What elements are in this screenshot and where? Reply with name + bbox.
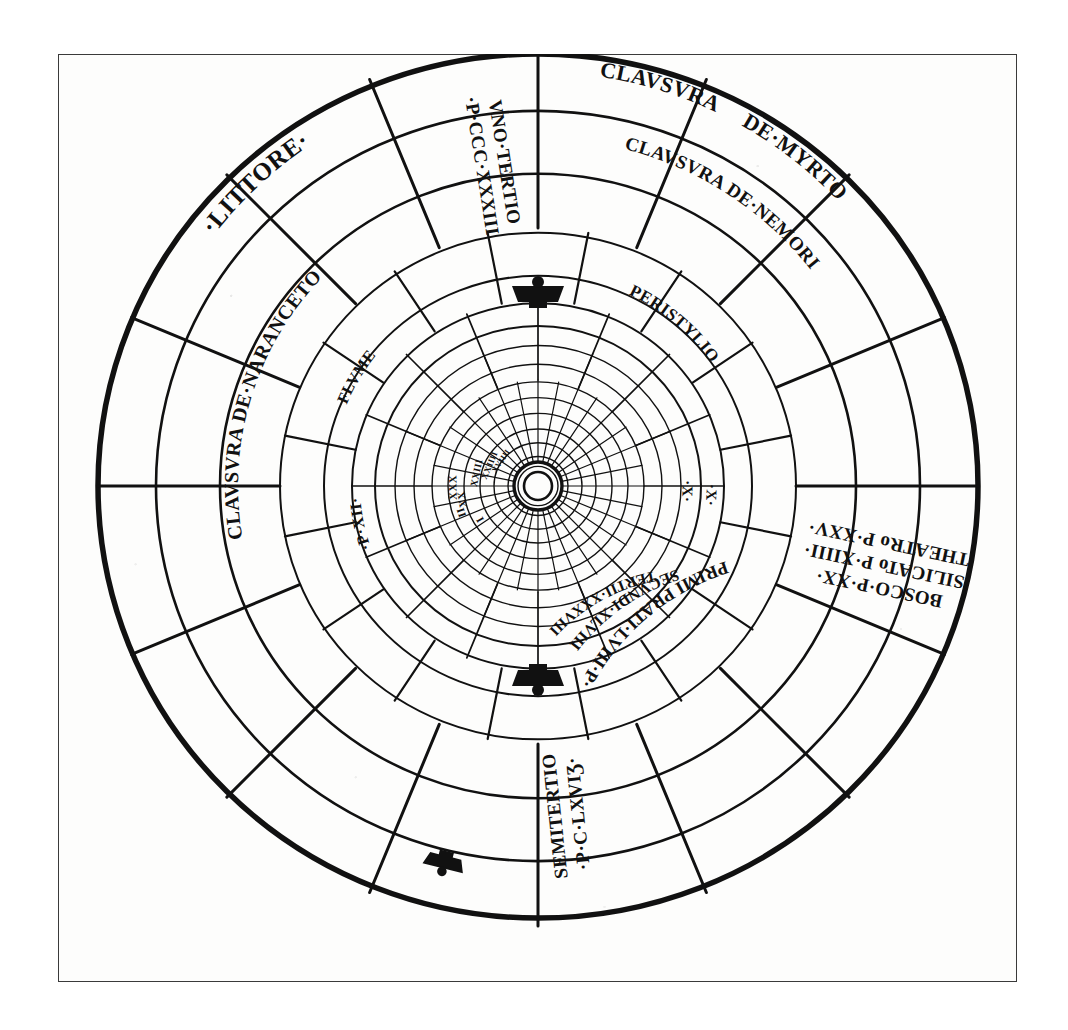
radial-plan-diagram: ·LITTORE·CLAVSVRADE·MYRTOBOSCO·P·XX·SILI…: [58, 54, 1017, 982]
core-spoke-9: [562, 491, 642, 507]
mid-spoke-11: [285, 522, 356, 536]
crown-gate-ornament-2: [421, 846, 468, 881]
outer-spoke-11: [131, 585, 299, 655]
mid-spoke-5: [693, 589, 753, 629]
crown-gate-ornament-1: [512, 664, 564, 696]
core-spoke-long-2: [636, 527, 670, 541]
label-littore: ·LITTORE·: [196, 126, 314, 238]
numeral-num-xxx: XXX: [446, 475, 458, 500]
outer-spoke-7: [637, 724, 707, 892]
tick-x-inner: ·X·: [679, 480, 696, 503]
core-spoke-long-6: [406, 431, 440, 445]
tick-x-outer: ·X·: [703, 484, 720, 507]
core-spoke-18: [497, 508, 528, 584]
plan-svg: ·LITTORE·CLAVSVRADE·MYRTOBOSCO·P·XX·SILI…: [58, 54, 1017, 982]
core-spoke-long-5: [406, 527, 440, 541]
core-spoke-20: [463, 503, 521, 561]
mid-spoke-0: [574, 233, 588, 304]
outer-spoke-6: [720, 668, 849, 797]
mid-spoke-15: [488, 233, 502, 304]
outer-spoke-10: [227, 668, 356, 797]
label-vno_tertio: VNO·TERTIO·P·CCC·XXXIII: [461, 91, 526, 236]
hub-inner-circle: [524, 472, 552, 500]
mid-spoke-3: [720, 436, 791, 450]
core-spoke-7: [562, 465, 642, 481]
core-spoke-14: [547, 508, 578, 584]
core-spoke-15: [543, 510, 559, 590]
core-spoke-2: [547, 388, 578, 464]
mid-spoke-12: [285, 436, 356, 450]
core-spoke-1: [543, 382, 559, 462]
label-peristylio: PERISTYLIO: [627, 281, 723, 366]
outer-spoke-9: [370, 724, 440, 892]
label-p_xii: ·P·XII·: [346, 497, 374, 553]
mid-spoke-14: [395, 271, 435, 331]
mid-spoke-9: [395, 641, 435, 701]
label-clausura_myrto_2: DE·MYRTO: [739, 108, 853, 205]
mid-spoke-6: [641, 641, 681, 701]
core-spoke-long-1: [636, 431, 670, 445]
outer-spoke-3: [776, 318, 944, 388]
core-spoke-31: [517, 382, 533, 462]
numeral-num-i: I: [473, 515, 486, 525]
hub-outer-circle: [514, 462, 562, 510]
crown-gate-ornament-0: [512, 276, 564, 308]
central-hub: [514, 462, 562, 510]
mid-spoke-4: [720, 522, 791, 536]
mid-spoke-8: [488, 668, 502, 739]
label-bosco_silicato_theatro: BOSCO·P·XX·SILICATo P·XIIII·THEATRo P·XX…: [797, 516, 971, 616]
outer-spoke-15: [370, 79, 440, 247]
ring-circle-2: [220, 174, 856, 799]
label-clausura_naranceto: CLAVSVRA DE·NARANCETO: [220, 265, 326, 542]
core-spoke-4: [555, 411, 613, 469]
page-canvas: ·LITTORE·CLAVSVRADE·MYRTOBOSCO·P·XX·SILI…: [0, 0, 1068, 1030]
label-clausura_myrto_1: CLAVSVRA: [598, 57, 724, 117]
core-spoke-17: [517, 510, 533, 590]
mid-spoke-10: [323, 589, 383, 629]
core-spoke-12: [555, 503, 613, 561]
